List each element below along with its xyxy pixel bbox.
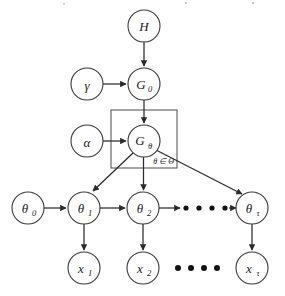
node-theta1[interactable]: θ 1 bbox=[68, 192, 100, 224]
node-x1-label: x bbox=[77, 261, 84, 276]
graphical-model-diagram: θ ∈ Θ bbox=[0, 0, 285, 296]
node-thetaT[interactable]: θ τ bbox=[236, 192, 268, 224]
diagram-canvas: θ ∈ Θ bbox=[0, 0, 285, 296]
node-Gtheta-subscript: θ bbox=[148, 141, 152, 151]
node-x2-label: x bbox=[136, 261, 143, 276]
node-alpha[interactable]: α bbox=[71, 125, 103, 157]
node-x1-subscript: 1 bbox=[88, 268, 92, 278]
edge-Gtheta-to-theta1 bbox=[93, 153, 133, 191]
node-H-label: H bbox=[138, 19, 149, 34]
node-alpha-label: α bbox=[84, 135, 92, 150]
node-H[interactable]: H bbox=[128, 10, 160, 42]
node-xT[interactable]: x τ bbox=[236, 252, 268, 284]
node-gamma-label: γ bbox=[84, 78, 90, 93]
node-Gtheta[interactable]: G θ bbox=[128, 125, 160, 157]
node-theta2[interactable]: θ 2 bbox=[127, 192, 159, 224]
node-x2-circle[interactable] bbox=[127, 252, 159, 284]
top-crop-artifacts bbox=[63, 2, 254, 5]
ellipsis-x-row bbox=[175, 265, 220, 271]
node-xT-label: x bbox=[245, 261, 252, 276]
node-theta1-label: θ bbox=[78, 201, 85, 216]
edge-Gtheta-to-thetaT bbox=[156, 150, 242, 194]
node-theta2-label: θ bbox=[137, 201, 144, 216]
node-theta1-subscript: 1 bbox=[88, 208, 92, 218]
node-x2[interactable]: x 2 bbox=[127, 252, 159, 284]
node-Gtheta-label: G bbox=[135, 133, 145, 148]
node-xT-circle[interactable] bbox=[236, 252, 268, 284]
ellipsis-theta-row bbox=[183, 205, 227, 210]
node-theta0[interactable]: θ 0 bbox=[12, 192, 44, 224]
node-thetaT-label: θ bbox=[246, 201, 253, 216]
node-theta0-label: θ bbox=[22, 201, 29, 216]
node-x1-circle[interactable] bbox=[68, 252, 100, 284]
node-G0-label: G bbox=[136, 77, 146, 92]
node-gamma[interactable]: γ bbox=[71, 68, 103, 100]
node-G0[interactable]: G 0 bbox=[128, 68, 160, 100]
node-x1[interactable]: x 1 bbox=[68, 252, 100, 284]
